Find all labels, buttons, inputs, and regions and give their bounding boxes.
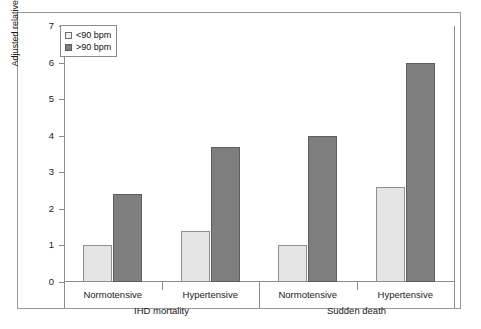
chart-figure: Adjusted relative risk 76543210 Normoten… xyxy=(17,12,461,309)
legend-item-0: <90 bpm xyxy=(65,29,111,41)
bar-high-bpm-3 xyxy=(406,63,435,282)
bar-high-bpm-1 xyxy=(211,147,240,282)
legend-label-1: >90 bpm xyxy=(76,42,111,52)
x-group-divider-0 xyxy=(64,282,65,308)
legend-item-1: >90 bpm xyxy=(65,41,111,53)
y-tick-label-0: 0 xyxy=(32,276,54,287)
x-sublabel-2: Normotensive xyxy=(259,289,357,300)
y-axis-label: Adjusted relative risk xyxy=(10,0,24,105)
x-subgroup-tick xyxy=(357,282,358,290)
x-sublabel-1: Hypertensive xyxy=(161,289,259,300)
y-tick-label-7: 7 xyxy=(32,20,54,31)
bar-low-bpm-3 xyxy=(376,187,405,282)
chart-legend: <90 bpm>90 bpm xyxy=(60,25,117,57)
bar-low-bpm-1 xyxy=(181,231,210,282)
legend-swatch-dark-icon xyxy=(65,44,72,51)
y-tick-label-5: 5 xyxy=(32,93,54,104)
y-tick-label-2: 2 xyxy=(32,203,54,214)
y-tick-label-3: 3 xyxy=(32,166,54,177)
right-axis-line xyxy=(454,26,455,282)
bar-high-bpm-2 xyxy=(308,136,337,282)
bar-high-bpm-0 xyxy=(113,194,142,282)
x-group-divider-1 xyxy=(259,282,260,308)
bar-low-bpm-2 xyxy=(278,245,307,282)
x-sublabel-0: Normotensive xyxy=(64,289,162,300)
x-sublabel-3: Hypertensive xyxy=(356,289,454,300)
legend-swatch-light-icon xyxy=(65,32,72,39)
x-group-label-1: Sudden death xyxy=(267,305,447,316)
y-tick-label-4: 4 xyxy=(32,130,54,141)
y-tick-label-6: 6 xyxy=(32,57,54,68)
x-group-divider-2 xyxy=(454,282,455,308)
x-subgroup-tick xyxy=(162,282,163,290)
legend-label-0: <90 bpm xyxy=(76,30,111,40)
bar-low-bpm-0 xyxy=(83,245,112,282)
plot-area xyxy=(64,26,454,282)
x-group-label-0: IHD mortality xyxy=(72,305,252,316)
y-tick-label-1: 1 xyxy=(32,239,54,250)
